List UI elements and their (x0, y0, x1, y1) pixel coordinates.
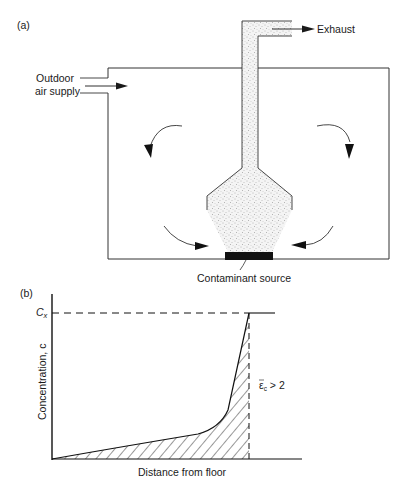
figure: (a) Outdoor air supply Exhaust Contamina… (0, 0, 404, 496)
source-label: Contaminant source (197, 272, 291, 284)
y-axis-label: Concentration, c (36, 344, 48, 420)
panel-a-label: (a) (17, 19, 30, 31)
circulation-arrow-upper-right-icon (317, 125, 354, 159)
cx-label: Cx (36, 306, 48, 320)
inlet-label-line2: air supply (35, 85, 81, 97)
inlet-label-line1: Outdoor (36, 72, 74, 84)
circulation-arrow-lower-left-icon (164, 226, 209, 250)
inlet-arrow-icon (85, 83, 128, 90)
circulation-arrow-upper-left-icon (144, 125, 182, 158)
hatched-area (52, 313, 249, 459)
panel-b-label: (b) (20, 287, 33, 299)
efficiency-annotation: εc > 2 (259, 379, 285, 392)
exhaust-label: Exhaust (317, 23, 355, 35)
contaminant-source (225, 252, 273, 260)
circulation-arrow-lower-right-icon (291, 226, 333, 249)
panel-b: (b) Cx Concentration, c Distance from fl… (20, 287, 302, 478)
x-axis-label: Distance from floor (138, 466, 227, 478)
exhaust-hood-duct (207, 21, 292, 252)
panel-a: (a) Outdoor air supply Exhaust Contamina… (17, 19, 389, 284)
source-leader-line (240, 260, 246, 270)
